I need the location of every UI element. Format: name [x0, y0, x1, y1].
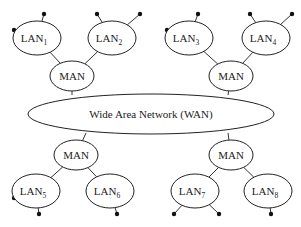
lan-man-link [85, 52, 98, 64]
host-dot-icon [269, 212, 273, 216]
lan-man-link [209, 167, 219, 177]
man-label: MAN [218, 70, 244, 82]
host-dot-icon [217, 212, 221, 216]
lan5-node: LAN5 [12, 174, 60, 208]
host-dot-icon [196, 12, 200, 16]
lan1-node: LAN1 [13, 21, 61, 55]
man-wan-link [83, 133, 86, 141]
lan7-node: LAN7 [171, 174, 219, 208]
man-top-left-node: MAN [50, 61, 94, 91]
host-dot-icon [248, 12, 252, 16]
lan3-node: LAN3 [165, 21, 213, 55]
lan-man-link [204, 51, 218, 64]
host-dot-icon [95, 12, 99, 16]
lan4-node: LAN4 [242, 21, 290, 55]
lan8-node: LAN8 [244, 174, 292, 208]
nodes-layer: Wide Area Network (WAN) MANMANMANMANLAN1… [12, 12, 294, 216]
man-bottom-left-node: MAN [54, 140, 98, 170]
host-dot-icon [37, 212, 41, 216]
man-label: MAN [218, 149, 244, 161]
wan-node: Wide Area Network (WAN) [28, 94, 274, 134]
lan-man-link [88, 168, 97, 177]
man-label: MAN [59, 70, 85, 82]
host-dot-icon [42, 12, 46, 16]
lan-man-link [244, 167, 254, 177]
lan-man-link [50, 52, 60, 63]
man-label: MAN [63, 149, 89, 161]
host-link [127, 14, 140, 25]
lan2-node: LAN2 [88, 21, 136, 55]
man-bottom-right-node: MAN [209, 140, 253, 170]
man-wan-link [228, 91, 229, 95]
wan-label: Wide Area Network (WAN) [89, 108, 213, 121]
host-dot-icon [172, 212, 176, 216]
host-dot-icon [290, 12, 294, 16]
host-link [281, 14, 292, 25]
lan-man-link [243, 52, 253, 63]
lan6-node: LAN6 [86, 174, 134, 208]
lan-man-link [51, 167, 63, 178]
host-dot-icon [138, 12, 142, 16]
man-wan-link [228, 133, 229, 140]
host-dot-icon [115, 212, 119, 216]
man-top-right-node: MAN [209, 61, 253, 91]
network-hierarchy-diagram: Wide Area Network (WAN) MANMANMANMANLAN1… [0, 0, 301, 227]
